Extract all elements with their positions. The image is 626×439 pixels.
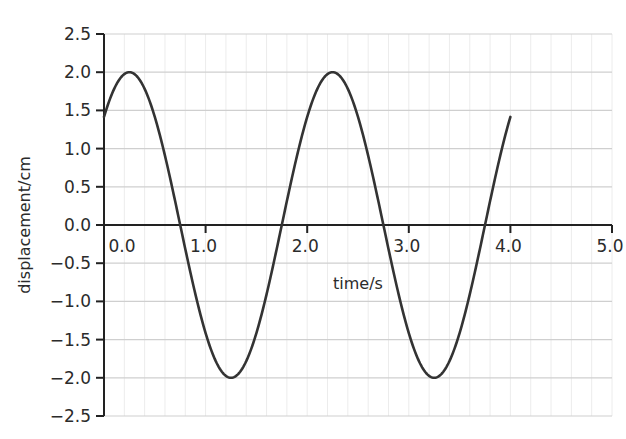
- y-tick-label: 1.5: [64, 100, 91, 120]
- x-tick-label: 0.0: [108, 236, 135, 256]
- y-tick-label: 0.5: [64, 177, 91, 197]
- y-tick-label: −1.0: [50, 291, 91, 311]
- x-tick-label: 3.0: [393, 236, 420, 256]
- y-tick-label: 2.5: [64, 24, 91, 44]
- y-tick-label: 2.0: [64, 62, 91, 82]
- y-tick-label: −1.5: [50, 330, 91, 350]
- displacement-time-chart: 2.52.01.51.00.50.0−0.5−1.0−1.5−2.0−2.50.…: [0, 0, 626, 439]
- y-axis-title: displacement/cm: [15, 156, 34, 294]
- y-tick-label: −2.5: [50, 406, 91, 426]
- x-tick-label: 4.0: [495, 236, 522, 256]
- x-tick-label: 5.0: [596, 236, 623, 256]
- y-tick-label: −0.5: [50, 253, 91, 273]
- y-tick-label: 1.0: [64, 139, 91, 159]
- x-tick-label: 1.0: [190, 236, 217, 256]
- y-tick-label: 0.0: [64, 215, 91, 235]
- axes: [96, 34, 612, 416]
- x-tick-label: 2.0: [292, 236, 319, 256]
- y-tick-label: −2.0: [50, 368, 91, 388]
- x-axis-title: time/s: [333, 274, 383, 293]
